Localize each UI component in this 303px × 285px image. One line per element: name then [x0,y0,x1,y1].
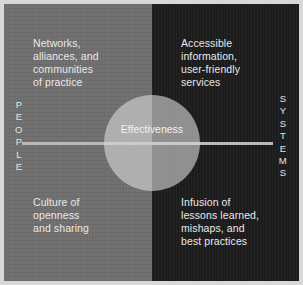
diagram-panel: Effectiveness Networks, alliances, and c… [4,4,299,281]
axis-label-letter: M [276,155,290,167]
axis-label-letter: T [276,130,290,142]
axis-label-letter: S [276,167,290,179]
axis-label-letter: P [12,99,26,111]
axis-label-letter: S [276,93,290,105]
quadrant-bottom-right-text: Infusion of lessons learned, mishaps, an… [181,196,299,248]
axis-label-people: PEOPLE [12,99,26,173]
diagram-canvas: Effectiveness Networks, alliances, and c… [0,0,303,285]
axis-label-letter: L [12,149,26,161]
axis-label-letter: E [12,161,26,173]
quadrant-top-left-text: Networks, alliances, and communities of … [33,37,148,89]
axis-label-letter: P [12,136,26,148]
axis-label-systems: SYSTEMS [276,93,290,180]
axis-label-letter: E [276,143,290,155]
axis-label-letter: O [12,124,26,136]
quadrant-top-right-text: Accessible information, user-friendly se… [181,37,296,89]
effectiveness-circle [104,95,200,191]
axis-label-letter: Y [276,105,290,117]
effectiveness-label: Effectiveness [112,123,192,136]
axis-label-letter: S [276,118,290,130]
axis-label-letter: E [12,111,26,123]
quadrant-bottom-left-text: Culture of openness and sharing [33,196,148,235]
